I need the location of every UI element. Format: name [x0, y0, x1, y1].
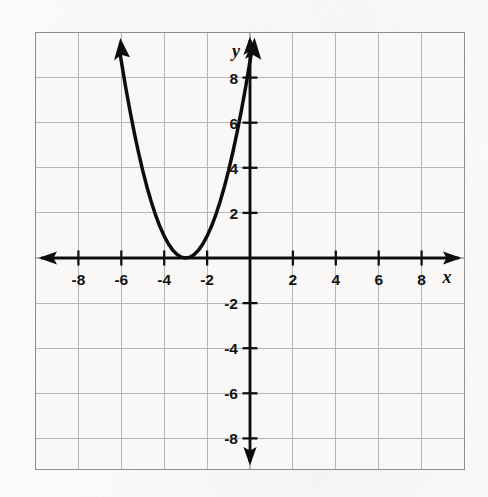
svg-text:-4: -4	[157, 271, 171, 288]
svg-text:2: 2	[289, 271, 298, 288]
y-axis-label: y	[230, 41, 241, 61]
svg-text:-8: -8	[72, 271, 86, 288]
svg-text:-2: -2	[224, 295, 238, 312]
svg-text:-2: -2	[200, 271, 214, 288]
svg-text:-4: -4	[224, 340, 238, 357]
svg-text:6: 6	[374, 271, 383, 288]
svg-text:4: 4	[229, 160, 238, 177]
svg-text:6: 6	[229, 115, 238, 132]
svg-text:-6: -6	[224, 385, 238, 402]
svg-text:2: 2	[229, 205, 238, 222]
svg-text:-6: -6	[114, 271, 128, 288]
svg-text:-8: -8	[224, 430, 238, 447]
svg-text:8: 8	[229, 70, 238, 87]
coordinate-plane-figure: -8 -6 -4 -2 2 4 6 8 8 6 4 2 -2 -4 -6 -8 …	[0, 0, 488, 497]
svg-text:8: 8	[417, 271, 426, 288]
svg-text:4: 4	[331, 271, 340, 288]
x-axis-label: x	[442, 267, 452, 287]
